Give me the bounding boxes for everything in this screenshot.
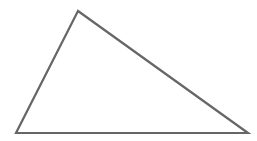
diagram-canvas: [0, 0, 257, 141]
triangle-shape: [16, 11, 248, 133]
triangle-diagram: [0, 0, 257, 141]
